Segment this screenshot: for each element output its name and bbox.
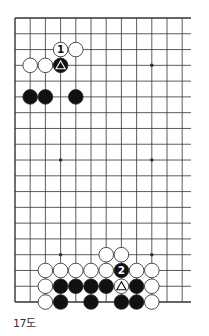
white-stone — [99, 247, 114, 262]
white-stone — [53, 263, 68, 278]
white-stone — [145, 295, 160, 310]
black-stone — [69, 90, 84, 105]
white-stone — [99, 263, 114, 278]
move-number: 1 — [57, 43, 64, 55]
move-number: 2 — [118, 264, 125, 276]
black-stone — [23, 90, 38, 105]
star-point — [150, 64, 154, 68]
black-stone — [129, 279, 144, 294]
white-stone — [23, 58, 38, 73]
white-stone — [145, 263, 160, 278]
star-point — [59, 253, 63, 257]
black-stone — [38, 90, 53, 105]
black-stone — [129, 295, 144, 310]
black-stone — [84, 295, 99, 310]
white-stone — [38, 263, 53, 278]
star-point — [150, 158, 154, 162]
black-stone — [84, 279, 99, 294]
black-stone — [69, 279, 84, 294]
black-stone — [53, 279, 68, 294]
white-stone — [38, 279, 53, 294]
go-board: 12 — [0, 0, 209, 310]
star-point — [150, 253, 154, 257]
white-stone — [38, 58, 53, 73]
white-stone — [114, 247, 129, 262]
black-stone — [114, 295, 129, 310]
white-stone — [129, 263, 144, 278]
black-stone — [99, 279, 114, 294]
white-stone — [38, 295, 53, 310]
white-stone — [69, 263, 84, 278]
black-stone — [53, 295, 68, 310]
diagram-caption: 17도 — [13, 314, 36, 330]
white-stone — [84, 263, 99, 278]
white-stone — [145, 279, 160, 294]
star-point — [59, 158, 63, 162]
white-stone — [69, 42, 84, 57]
